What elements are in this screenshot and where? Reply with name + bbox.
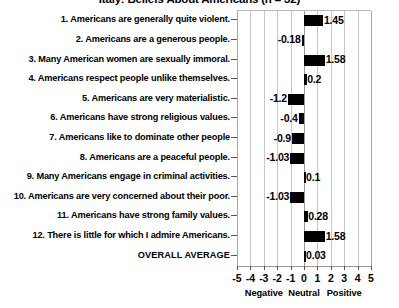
category-label: 6. Americans have strong religious value… — [0, 108, 230, 127]
y-axis-tick — [231, 39, 237, 40]
axis-tickmark — [250, 266, 251, 270]
chart-row: 1. Americans are generally quite violent… — [0, 10, 399, 29]
category-label: 5. Americans are very materialistic. — [0, 89, 230, 108]
y-axis-tick — [231, 255, 237, 256]
chart-row: 11. Americans have strong family values. — [0, 206, 399, 225]
category-label: 2. Americans are a generous people. — [0, 30, 230, 49]
axis-tickmark — [304, 266, 305, 270]
axis-tickmark — [264, 266, 265, 270]
chart-row: 7. Americans like to dominate other peop… — [0, 128, 399, 147]
y-axis-tick — [231, 196, 237, 197]
category-label: 7. Americans like to dominate other peop… — [0, 128, 230, 147]
category-label: 4. Americans respect people unlike thems… — [0, 69, 230, 88]
chart-row: 6. Americans have strong religious value… — [0, 108, 399, 127]
category-label: 10. Americans are very concerned about t… — [0, 187, 230, 206]
category-label: OVERALL AVERAGE — [0, 246, 230, 265]
axis-tickmark — [371, 266, 372, 270]
axis-band-label: Positive — [309, 288, 379, 298]
category-label: 3. Many American women are sexually immo… — [0, 50, 230, 69]
chart-row: 8. Americans are a peaceful people. — [0, 148, 399, 167]
axis-tickmark — [344, 266, 345, 270]
y-axis-tick — [231, 59, 237, 60]
axis-tick-label: 5 — [359, 272, 383, 284]
x-axis-ticks — [237, 266, 371, 270]
chart-row: 5. Americans are very materialistic. — [0, 89, 399, 108]
chart-row: 9. Many Americans engage in criminal act… — [0, 167, 399, 186]
y-axis-tick — [231, 78, 237, 79]
axis-tickmark — [277, 266, 278, 270]
category-label: 12. There is little for which I admire A… — [0, 226, 230, 245]
y-axis-tick — [231, 176, 237, 177]
chart-row: 10. Americans are very concerned about t… — [0, 187, 399, 206]
chart-row: 4. Americans respect people unlike thems… — [0, 69, 399, 88]
category-label: 8. Americans are a peaceful people. — [0, 148, 230, 167]
category-label: 1. Americans are generally quite violent… — [0, 10, 230, 29]
axis-tickmark — [237, 266, 238, 270]
chart-container: Italy: Beliefs About Americans (n = 32) … — [0, 0, 399, 308]
y-axis-tick — [231, 137, 237, 138]
chart-title: Italy: Beliefs About Americans (n = 32) — [0, 0, 399, 5]
y-axis-tick — [231, 98, 237, 99]
category-label: 11. Americans have strong family values. — [0, 206, 230, 225]
y-axis-tick — [231, 117, 237, 118]
axis-tickmark — [317, 266, 318, 270]
y-axis-tick — [231, 19, 237, 20]
y-axis-tick — [231, 235, 237, 236]
chart-row: 3. Many American women are sexually immo… — [0, 50, 399, 69]
chart-row: 2. Americans are a generous people. — [0, 30, 399, 49]
axis-tickmark — [331, 266, 332, 270]
category-label: 9. Many Americans engage in criminal act… — [0, 167, 230, 186]
chart-row: 12. There is little for which I admire A… — [0, 226, 399, 245]
chart-row: OVERALL AVERAGE — [0, 246, 399, 265]
y-axis-tick — [231, 215, 237, 216]
y-axis-tick — [231, 157, 237, 158]
axis-tickmark — [291, 266, 292, 270]
axis-tickmark — [358, 266, 359, 270]
